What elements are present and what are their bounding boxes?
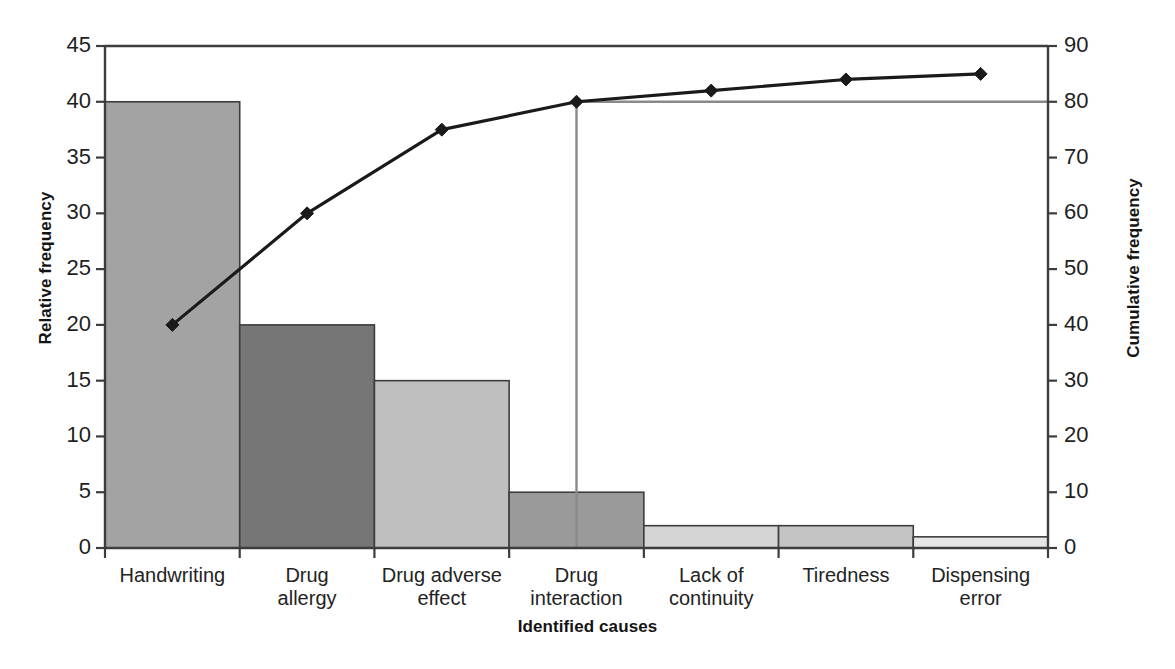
reference-lines-group <box>577 102 1049 548</box>
bar <box>779 526 914 548</box>
data-point-marker <box>974 67 987 80</box>
pareto-chart: Relative frequency Cumulative frequency … <box>0 0 1175 669</box>
data-point-marker <box>570 95 583 108</box>
bar <box>374 381 509 548</box>
bar <box>240 325 375 548</box>
data-point-marker <box>839 73 852 86</box>
bar <box>913 537 1048 548</box>
data-point-marker <box>705 84 718 97</box>
bar <box>644 526 779 548</box>
plot-area <box>0 0 1175 669</box>
